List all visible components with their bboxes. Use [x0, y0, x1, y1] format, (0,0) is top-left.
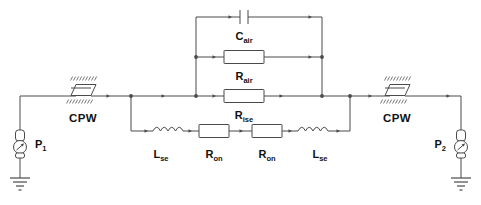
cpw-left-block[interactable] [67, 77, 98, 104]
port2-ground-symbol [451, 178, 471, 190]
label-r-on-right: Ron [258, 148, 276, 163]
inductor-l-se-right[interactable] [298, 127, 328, 131]
node-bottom-left [129, 94, 133, 98]
node-cair-right [320, 94, 324, 98]
port1-source-symbol[interactable] [14, 130, 27, 158]
label-l-se-left: Lse [153, 148, 168, 163]
resistor-r-on-right[interactable] [252, 125, 282, 138]
label-p2: P2 [434, 138, 446, 153]
circuit-diagram-canvas: Cair Rair Rise Lse Ron Ron Lse C [0, 0, 481, 205]
resistor-r-on-left[interactable] [199, 125, 229, 138]
resistor-r-air[interactable] [224, 51, 264, 64]
port2-source-symbol[interactable] [455, 130, 468, 158]
node-rair-left [194, 55, 198, 59]
label-c-air: Cair [235, 30, 252, 45]
label-l-se-right: Lse [312, 148, 327, 163]
resistor-r-ise[interactable] [224, 90, 264, 103]
label-cpw-left: CPW [69, 112, 97, 124]
label-cpw-right: CPW [383, 112, 411, 124]
label-r-air: Rair [235, 70, 252, 85]
node-bottom-right [348, 94, 352, 98]
port1-ground-symbol [10, 178, 30, 190]
node-rair-right [320, 55, 324, 59]
label-r-on-left: Ron [205, 148, 223, 163]
capacitor-c-air[interactable] [240, 10, 248, 24]
inductor-l-se-left[interactable] [153, 127, 183, 131]
node-cair-left [194, 94, 198, 98]
label-r-ise: Rise [235, 109, 253, 124]
cpw-right-block[interactable] [381, 77, 412, 104]
label-p1: P1 [35, 138, 47, 153]
